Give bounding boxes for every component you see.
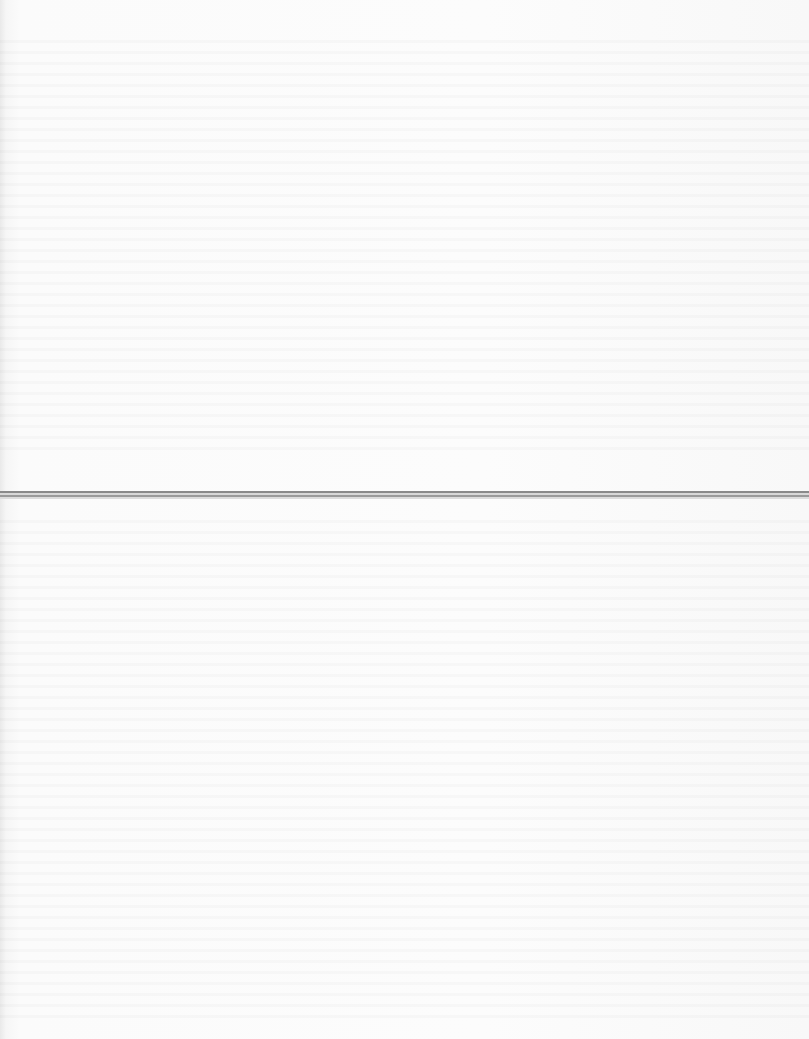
scanned-page [0, 0, 809, 1039]
bleed-through-text-top [0, 40, 809, 450]
bleed-through-text-bottom [0, 520, 809, 1020]
page-text [0, 0, 1, 1]
fold-line [0, 491, 809, 499]
